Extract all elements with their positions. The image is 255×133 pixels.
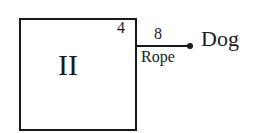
dog-label: Dog [201, 28, 239, 50]
rope-label: Rope [141, 49, 175, 65]
rope-length-label: 8 [154, 26, 162, 42]
rope-line [136, 45, 191, 47]
side-length-label: 4 [117, 20, 125, 36]
room-label: II [58, 50, 78, 80]
dog-point [187, 43, 193, 49]
